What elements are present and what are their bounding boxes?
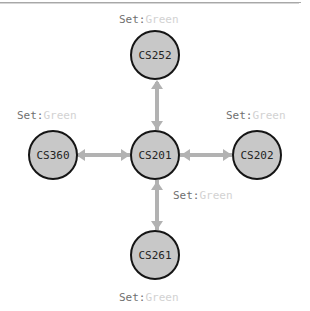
edge-label-center-lower-value: Green [200, 189, 233, 202]
node-cs360[interactable]: CS360 [28, 130, 78, 180]
node-cs261-label: CS261 [138, 250, 171, 261]
node-cs252-label: CS252 [138, 50, 171, 61]
node-cs201-label: CS201 [138, 150, 171, 161]
node-cs252[interactable]: CS252 [130, 30, 180, 80]
edge-label-cs202-key: Set: [226, 109, 253, 122]
edge-label-cs202: Set:Green [226, 110, 286, 121]
top-divider-shadow [0, 3, 299, 4]
arrowhead-up-cs252 [151, 80, 163, 89]
arrowhead-down-cs201 [151, 121, 163, 130]
node-cs202[interactable]: CS202 [232, 130, 282, 180]
edge-label-center-lower-key: Set: [173, 189, 200, 202]
arrowhead-right-cs201-left [121, 149, 130, 161]
arrowhead-left-cs201-right [181, 149, 190, 161]
node-cs261[interactable]: CS261 [130, 230, 180, 280]
edge-label-cs360: Set:Green [17, 110, 77, 121]
node-cs202-label: CS202 [240, 150, 273, 161]
edge-label-cs261-key: Set: [119, 291, 146, 304]
edge-label-cs252-value: Green [146, 13, 179, 26]
edge-label-cs360-value: Green [44, 109, 77, 122]
edge-label-cs360-key: Set: [17, 109, 44, 122]
edge-label-cs261-value: Green [146, 291, 179, 304]
diagram-canvas: CS252 CS360 CS201 CS202 CS261 Set:Green … [0, 0, 310, 311]
edge-label-cs202-value: Green [253, 109, 286, 122]
node-cs360-label: CS360 [36, 150, 69, 161]
edge-label-cs252: Set:Green [119, 14, 179, 25]
edge-label-center-lower: Set:Green [173, 190, 233, 201]
arrowhead-down-cs261 [151, 221, 163, 230]
arrowhead-up-cs201 [151, 181, 163, 190]
edge-label-cs252-key: Set: [119, 13, 146, 26]
node-cs201[interactable]: CS201 [130, 130, 180, 180]
arrowhead-right-cs202 [223, 149, 232, 161]
edge-label-cs261: Set:Green [119, 292, 179, 303]
